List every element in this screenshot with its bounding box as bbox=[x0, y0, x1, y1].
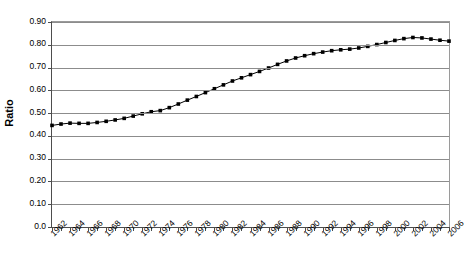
x-axis-tick-label: 1992 bbox=[320, 219, 339, 238]
x-axis-tick-label: 1996 bbox=[356, 219, 375, 238]
x-axis-tick-label: 2006 bbox=[446, 219, 465, 238]
x-axis-tick-label: 1976 bbox=[175, 219, 194, 238]
x-axis-tick-label: 1978 bbox=[193, 219, 212, 238]
x-axis-tick-label: 1980 bbox=[211, 219, 230, 238]
x-axis-tick-label: 1970 bbox=[121, 219, 140, 238]
x-axis-tick-label: 2002 bbox=[410, 219, 429, 238]
x-axis-tick-label: 1994 bbox=[338, 219, 357, 238]
x-axis-tick-label: 1986 bbox=[266, 219, 285, 238]
x-axis-tick-label: 1988 bbox=[284, 219, 303, 238]
x-axis-tick-label: 1982 bbox=[229, 219, 248, 238]
x-axis-tick-label: 1984 bbox=[248, 219, 267, 238]
x-axis-tick-label: 1968 bbox=[103, 219, 122, 238]
x-axis-tick-label: 1964 bbox=[67, 219, 86, 238]
x-axis-tick-label: 1998 bbox=[374, 219, 393, 238]
x-axis-tick-label: 1966 bbox=[85, 219, 104, 238]
x-axis-tick-label: 1962 bbox=[49, 219, 68, 238]
x-axis-tick-label: 2000 bbox=[392, 219, 411, 238]
x-axis-tick-label: 2004 bbox=[428, 219, 447, 238]
x-axis-tick-label: 1972 bbox=[139, 219, 158, 238]
x-axis-tick-label: 1974 bbox=[157, 219, 176, 238]
x-axis-tick-label: 1990 bbox=[302, 219, 321, 238]
